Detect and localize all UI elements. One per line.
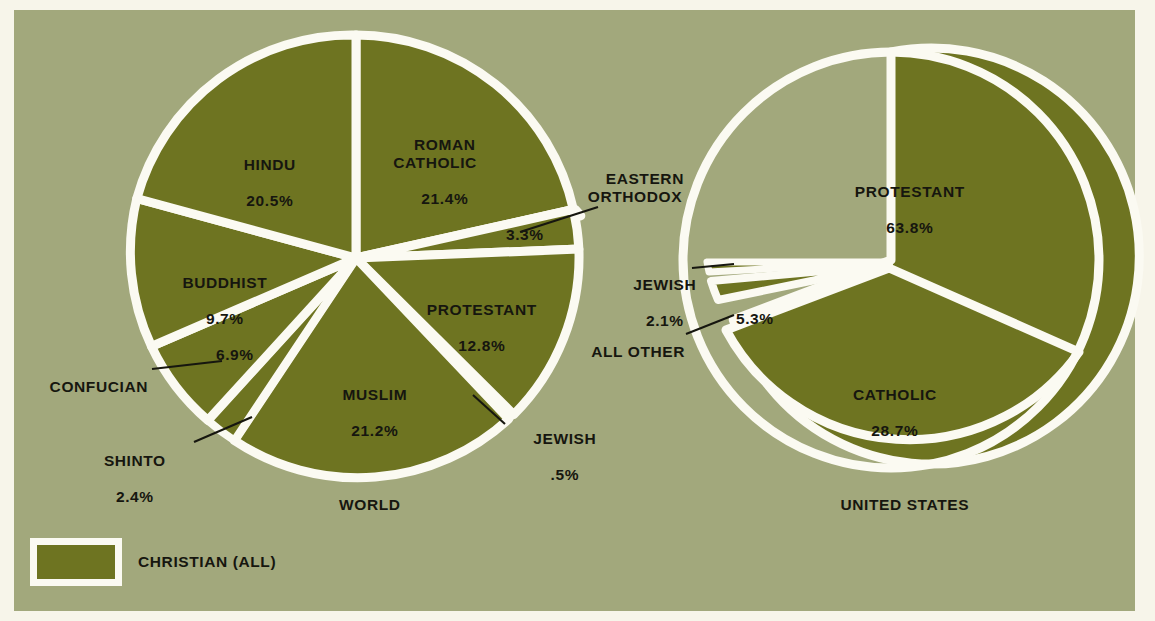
label-us-all-other-name: ALL OTHER (591, 343, 685, 360)
label-world-jewish: JEWISH .5% (500, 412, 610, 502)
label-buddhist-value: 9.7% (206, 310, 244, 327)
label-shinto-value: 2.4% (116, 488, 154, 505)
label-world-jewish-name: JEWISH (533, 430, 596, 447)
label-eastern-orthodox-value: 3.3% (506, 226, 544, 243)
label-us-protestant-name: PROTESTANT (855, 183, 965, 200)
caption-world-text: WORLD (339, 496, 401, 513)
label-hindu-name: HINDU (244, 156, 296, 173)
label-muslim-value: 21.2% (351, 422, 398, 439)
label-us-all-other-value-wrap: 5.3% (700, 292, 790, 346)
label-buddhist: BUDDHIST 9.7% (140, 256, 290, 346)
label-shinto: SHINTO 2.4% (55, 434, 195, 524)
label-buddhist-name: BUDDHIST (182, 274, 267, 291)
label-muslim-name: MUSLIM (342, 386, 407, 403)
label-hindu-value: 20.5% (246, 192, 293, 209)
label-world-protestant-name: PROTESTANT (427, 301, 537, 318)
label-eastern-orthodox: EASTERN ORTHODOX (555, 152, 715, 224)
label-us-jewish-name: JEWISH (633, 276, 696, 293)
label-roman-catholic-value: 21.4% (421, 190, 468, 207)
label-hindu: HINDU 20.5% (185, 138, 335, 228)
caption-united-states: UNITED STATES (800, 478, 990, 532)
label-world-jewish-value: .5% (551, 466, 580, 483)
label-us-all-other: ALL OTHER (545, 325, 685, 379)
label-us-catholic-value: 28.7% (871, 422, 918, 439)
legend: CHRISTIAN (ALL) (30, 538, 276, 586)
label-world-protestant-value: 12.8% (458, 337, 505, 354)
label-us-catholic: CATHOLIC 28.7% (805, 368, 965, 458)
label-eastern-orthodox-name: EASTERN ORTHODOX (588, 170, 684, 205)
label-world-protestant: PROTESTANT 12.8% (392, 283, 552, 373)
caption-world: WORLD (280, 478, 440, 532)
label-us-catholic-name: CATHOLIC (853, 386, 937, 403)
label-roman-catholic-name: ROMAN CATHOLIC (393, 136, 477, 171)
label-us-protestant-value: 63.8% (886, 219, 933, 236)
figure-canvas: HINDU 20.5% ROMAN CATHOLIC 21.4% EASTERN… (0, 0, 1155, 621)
label-shinto-name: SHINTO (104, 452, 166, 469)
label-us-all-other-value: 5.3% (736, 310, 774, 327)
legend-label-christian: CHRISTIAN (ALL) (138, 553, 276, 571)
label-confucian: CONFUCIAN (8, 360, 148, 414)
caption-united-states-text: UNITED STATES (840, 496, 969, 513)
label-muslim: MUSLIM 21.2% (295, 368, 435, 458)
label-confucian-value: 6.9% (216, 346, 254, 363)
label-eastern-orthodox-value-wrap: 3.3% (460, 208, 570, 262)
label-confucian-name: CONFUCIAN (50, 378, 148, 395)
legend-swatch-christian (30, 538, 122, 586)
label-us-protestant: PROTESTANT 63.8% (810, 165, 990, 255)
